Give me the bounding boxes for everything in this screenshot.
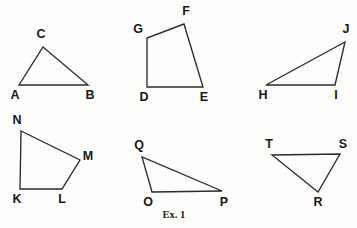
vertex-label-r: R (313, 195, 322, 209)
quadrilateral-klmn (20, 131, 80, 189)
vertex-label-b: B (85, 88, 94, 102)
vertex-label-c: C (36, 27, 45, 41)
vertex-label-d: D (139, 90, 148, 104)
vertex-label-a: A (10, 88, 19, 102)
geometry-figure: ABCDEFGHIJKLMNOPQTSR Ex. 1 (0, 0, 357, 228)
vertex-label-o: O (143, 195, 153, 209)
triangle-rst (272, 154, 340, 192)
vertex-label-g: G (133, 22, 143, 36)
figure-canvas: ABCDEFGHIJKLMNOPQTSR Ex. 1 (0, 0, 357, 228)
vertex-label-e: E (200, 90, 208, 104)
vertex-label-m: M (83, 149, 93, 163)
vertex-label-t: T (265, 137, 273, 151)
vertex-label-l: L (58, 192, 66, 206)
figure-caption: Ex. 1 (163, 209, 186, 220)
quadrilateral-defg (147, 24, 203, 87)
vertex-labels-group: ABCDEFGHIJKLMNOPQTSR (10, 4, 349, 209)
triangle-opq (142, 157, 222, 192)
shapes-group (19, 24, 345, 192)
vertex-label-f: F (182, 4, 190, 18)
triangle-abc (19, 47, 88, 85)
vertex-label-s: S (339, 137, 347, 151)
vertex-label-h: H (258, 88, 267, 102)
vertex-label-j: J (343, 22, 350, 36)
vertex-label-q: Q (134, 138, 144, 152)
vertex-label-i: I (334, 88, 337, 102)
vertex-label-k: K (12, 192, 21, 206)
vertex-label-n: N (12, 113, 21, 127)
triangle-hij (266, 42, 345, 85)
vertex-label-p: P (220, 195, 228, 209)
